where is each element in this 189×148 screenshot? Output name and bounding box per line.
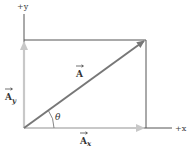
svg-text:x: x — [86, 139, 92, 148]
vector-a-arrow — [24, 41, 144, 128]
x-axis-label: +x — [175, 124, 187, 133]
vector-components-diagram: +y +x A A y A x θ — [0, 0, 189, 148]
angle-theta-label: θ — [55, 112, 61, 122]
vector-ax-label: A x — [79, 132, 92, 148]
svg-text:y: y — [11, 96, 17, 105]
angle-arc — [48, 110, 54, 128]
vector-ay-label: A y — [4, 88, 17, 105]
svg-text:A: A — [75, 69, 84, 79]
vector-a-label: A — [75, 65, 84, 79]
y-axis-label: +y — [17, 2, 29, 11]
